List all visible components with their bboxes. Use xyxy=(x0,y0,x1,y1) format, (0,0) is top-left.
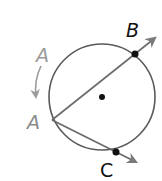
label-a-vertex: A xyxy=(25,111,40,133)
label-a-start: A xyxy=(34,44,49,66)
point-b xyxy=(132,51,139,58)
motion-arrow-icon xyxy=(36,66,41,97)
point-c xyxy=(113,149,120,156)
center-point xyxy=(99,94,105,100)
label-b: B xyxy=(126,19,139,41)
ray-ab xyxy=(52,38,155,120)
label-c: C xyxy=(100,159,113,181)
inscribed-angle-diagram: A A B C xyxy=(0,0,162,181)
ray-ac xyxy=(52,120,136,162)
